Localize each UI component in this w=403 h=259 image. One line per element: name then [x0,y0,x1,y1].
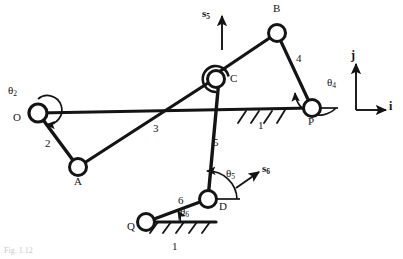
hatching-lower [150,222,210,233]
slide-label-s6: s6 [262,163,270,176]
ground-label-upper: 1 [258,120,264,131]
joint-label-O: O [13,112,21,123]
joint-label-Q: Q [127,221,135,232]
angle-label-theta6: θ6 [180,206,189,219]
joint-circles [29,25,321,231]
link-label-4: 4 [296,53,302,64]
angle-label-theta2: θ2 [8,85,17,98]
ground-frame-lower [146,222,216,233]
coordinate-axes [356,64,386,110]
link-label-3: 3 [153,123,159,134]
joint-A-circle [70,159,87,176]
link-cb-bar [216,33,277,74]
angle-label-theta4: θ4 [327,77,336,90]
linkage-figure: O A C B P D Q 2 3 4 5 6 1 1 θ2 θ4 θ5 θ6 … [0,0,403,259]
joint-P-circle [304,100,321,117]
joint-Q-circle [138,214,155,231]
joint-label-P: P [308,116,314,127]
joint-label-B: B [273,3,280,14]
joint-label-D: D [219,201,227,212]
ground-label-lower: 1 [172,241,178,252]
joint-label-A: A [74,176,82,187]
ground-frame-upper [38,108,312,123]
link-label-5: 5 [213,137,219,148]
slide-label-s5: s5 [202,8,210,21]
link-3-bar [78,74,222,167]
axis-label-j: j [351,49,355,61]
joint-C-circle [208,71,225,88]
linkage-diagram-svg [0,0,403,259]
figure-caption: Fig. 1.12 [4,246,33,255]
axis-label-i: i [389,100,392,112]
joint-B-circle [269,25,286,42]
joint-D-circle [200,191,217,208]
angle-label-theta5: θ5 [226,168,235,181]
joint-label-C: C [230,73,237,84]
linkage-bars [38,33,312,222]
link-label-2: 2 [45,138,51,149]
s6-arrow [236,172,259,188]
joint-O-circle [29,104,47,122]
link-4-bar [277,33,312,108]
